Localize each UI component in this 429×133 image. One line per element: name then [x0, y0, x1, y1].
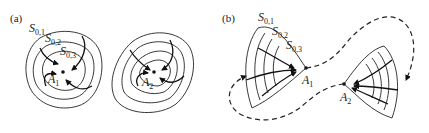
- panel-a-label: (a): [10, 12, 23, 25]
- basin-a2: [112, 33, 194, 113]
- panel-a: (a) S0,1 S0,2 S0,3 A1: [10, 12, 194, 113]
- figure-canvas: (a) S0,1 S0,2 S0,3 A1: [0, 0, 429, 133]
- panel-b-label: (b): [222, 12, 235, 25]
- attractor-a2-point: [152, 70, 156, 74]
- label-s01-a: S0,1: [29, 21, 45, 37]
- label-s03-b: S0,3: [286, 38, 302, 54]
- label-s02-a: S0,2: [45, 31, 61, 47]
- label-s03-a: S0,3: [60, 44, 76, 60]
- label-a1-b: A1: [301, 73, 313, 89]
- label-a2-a: A2: [141, 75, 153, 91]
- label-a2-b: A2: [339, 90, 351, 106]
- fan-a1: [246, 27, 308, 108]
- panel-b: (b) S0,1 S0,2 S0,3 A1: [222, 10, 414, 120]
- dashed-orbit-upper: [306, 17, 414, 80]
- label-a1-a: A1: [47, 72, 59, 88]
- fan-a2: [342, 46, 398, 118]
- attractor-a1-point: [61, 70, 65, 74]
- basin-a1: [26, 31, 102, 108]
